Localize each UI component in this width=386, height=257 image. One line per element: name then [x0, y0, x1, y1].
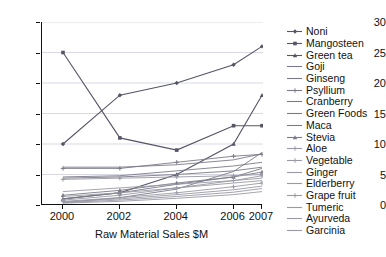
legend-item-cranberry[interactable]: Cranberry [286, 96, 386, 108]
legend-item-tumeric[interactable]: Tumeric [286, 201, 386, 213]
x-tick-mark [261, 205, 262, 209]
legend-item-ginseng[interactable]: Ginseng [286, 73, 386, 85]
y-tick-mark [36, 144, 40, 145]
data-point-marker [293, 88, 297, 92]
x-tick-label: 2007 [239, 210, 283, 222]
line-chart-figure: 051015202530 20002002200420062007 Raw Ma… [0, 0, 386, 257]
data-point-marker [231, 154, 235, 158]
legend-marker-icon [286, 120, 304, 131]
legend-label: Ginger [304, 167, 338, 178]
data-point-marker [293, 158, 297, 162]
legend-item-aloe[interactable]: Aloe [286, 143, 386, 155]
legend-item-psyllium[interactable]: Psyllium [286, 84, 386, 96]
data-point-marker [293, 147, 297, 151]
data-point-marker [175, 160, 179, 164]
legend-item-stevia[interactable]: Stevia [286, 131, 386, 143]
y-tick-mark [36, 114, 40, 115]
data-point-marker [118, 136, 122, 140]
y-tick-mark [36, 83, 40, 84]
x-tick-mark [233, 205, 234, 209]
legend-item-green-tea[interactable]: Green tea [286, 49, 386, 61]
legend-item-vegetable[interactable]: Vegetable [286, 155, 386, 167]
legend-marker-icon [286, 38, 304, 49]
legend-label: Stevia [304, 132, 335, 143]
legend-item-ginger[interactable]: Ginger [286, 166, 386, 178]
legend-marker-icon [286, 26, 304, 37]
legend-label: Vegetable [304, 155, 353, 166]
legend-label: Noni [304, 26, 328, 37]
chart-legend: NoniMangosteenGreen teaGojiGinsengPsylli… [286, 26, 386, 236]
legend-item-garcinia[interactable]: Garcinia [286, 225, 386, 237]
legend-marker-icon [286, 73, 304, 84]
legend-label: Grape fruit [304, 190, 356, 201]
data-point-marker [293, 30, 297, 34]
data-point-marker [61, 51, 65, 55]
data-point-marker [175, 81, 179, 85]
legend-label: Psyllium [304, 85, 345, 96]
legend-marker-icon [286, 108, 304, 119]
data-point-marker [260, 170, 263, 174]
y-tick-mark [36, 53, 40, 54]
x-tick-mark [176, 205, 177, 209]
legend-marker-icon [286, 178, 304, 189]
data-point-marker [231, 185, 235, 189]
x-tick-mark [119, 205, 120, 209]
data-point-marker [260, 181, 263, 185]
legend-marker-icon [286, 61, 304, 72]
legend-label: Elderberry [304, 178, 354, 189]
data-point-marker [175, 148, 179, 152]
legend-label: Ayurveda [304, 213, 350, 224]
legend-label: Cranberry [304, 96, 353, 107]
legend-label: Green Foods [304, 108, 367, 119]
legend-marker-icon [286, 225, 304, 236]
y-tick-mark [36, 205, 40, 206]
x-tick-label: 2000 [40, 210, 84, 222]
legend-marker-icon [286, 155, 304, 166]
x-tick-label: 2004 [154, 210, 198, 222]
series-psyllium [61, 152, 263, 170]
legend-marker-icon [286, 50, 304, 61]
legend-item-grape-fruit[interactable]: Grape fruit [286, 190, 386, 202]
legend-item-elderberry[interactable]: Elderberry [286, 178, 386, 190]
legend-label: Goji [304, 61, 325, 72]
data-point-marker [232, 124, 236, 128]
legend-label: Maca [304, 120, 332, 131]
legend-item-ayurveda[interactable]: Ayurveda [286, 213, 386, 225]
data-point-marker [260, 124, 263, 128]
series-line [63, 46, 262, 144]
legend-marker-icon [286, 167, 304, 178]
x-axis-title: Raw Material Sales $M [41, 228, 262, 240]
y-tick-mark [36, 175, 40, 176]
legend-label: Ginseng [304, 73, 345, 84]
x-tick-mark [62, 205, 63, 209]
legend-marker-icon [286, 190, 304, 201]
legend-item-mangosteen[interactable]: Mangosteen [286, 38, 386, 50]
legend-item-goji[interactable]: Goji [286, 61, 386, 73]
legend-label: Green tea [304, 50, 353, 61]
legend-item-green-foods[interactable]: Green Foods [286, 108, 386, 120]
legend-item-noni[interactable]: Noni [286, 26, 386, 38]
plot-area [41, 22, 262, 205]
data-point-marker [260, 93, 263, 97]
legend-label: Tumeric [304, 202, 344, 213]
legend-item-maca[interactable]: Maca [286, 120, 386, 132]
legend-label: Aloe [304, 143, 327, 154]
x-tick-label: 2002 [97, 210, 141, 222]
y-tick-mark [36, 22, 40, 23]
series-line [63, 53, 262, 151]
legend-marker-icon [286, 96, 304, 107]
data-point-marker [293, 193, 297, 197]
legend-marker-icon [286, 202, 304, 213]
legend-marker-icon [286, 213, 304, 224]
legend-marker-icon [286, 85, 304, 96]
legend-marker-icon [286, 143, 304, 154]
plot-lines [42, 22, 263, 205]
legend-marker-icon [286, 132, 304, 143]
legend-label: Mangosteen [304, 38, 364, 49]
legend-label: Garcinia [304, 225, 345, 236]
data-point-marker [293, 42, 297, 46]
